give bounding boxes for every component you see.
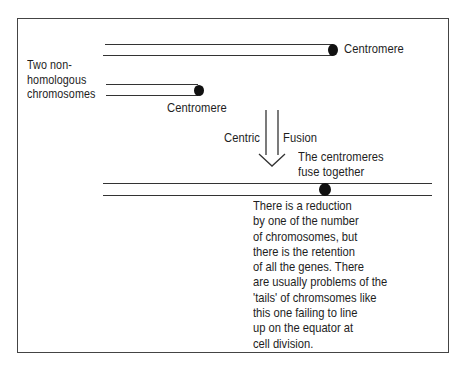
centromere-dot: [319, 183, 331, 196]
label-line: homologous: [27, 73, 95, 88]
chromatid-line: [103, 195, 432, 196]
text-line: there is the retention: [253, 244, 387, 259]
explanation-text: There is a reduction by one of the numbe…: [253, 198, 387, 351]
text-line: of all the genes. There: [253, 259, 387, 274]
chromatid-line: [105, 44, 333, 45]
text-line: 'tails' of chromsomes like: [253, 290, 387, 305]
chromatid-line: [106, 84, 198, 85]
arrow-label-fusion: Fusion: [283, 131, 317, 146]
text-line: There is a reduction: [253, 198, 387, 213]
text-line: this one failing to line: [253, 305, 387, 320]
centromere-dot: [194, 85, 204, 96]
text-line: by one of the number: [253, 213, 387, 228]
chromatid-line: [103, 55, 333, 56]
label-line: fuse together: [298, 165, 384, 180]
text-line: cell division.: [253, 336, 387, 351]
fuse-label: The centromeres fuse together: [298, 150, 384, 179]
text-line: are usually problems of the: [253, 274, 387, 289]
text-line: up on the equator at: [253, 320, 387, 335]
label-line: The centromeres: [298, 150, 384, 165]
label-line: chromosomes: [27, 87, 95, 102]
chromatid-line: [103, 183, 432, 184]
arrow-label-centric: Centric: [224, 131, 260, 146]
chromatid-line: [106, 95, 198, 96]
label-line: Two non-: [27, 58, 95, 73]
label-two-chromosomes: Two non- homologous chromosomes: [27, 58, 95, 102]
centromere-dot: [328, 44, 338, 56]
centromere-label-long: Centromere: [344, 42, 404, 57]
centromere-label-short: Centromere: [167, 101, 227, 116]
text-line: of chromosomes, but: [253, 229, 387, 244]
